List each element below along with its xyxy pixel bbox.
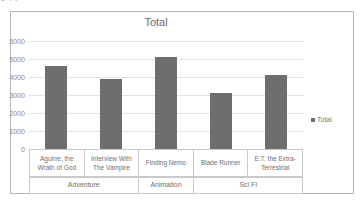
bar-series-total [29, 41, 303, 149]
y-tick-label-1000: 1000 [9, 128, 25, 135]
legend-swatch-icon [311, 118, 315, 122]
y-tick-label-5000: 5000 [9, 56, 25, 63]
x-axis-category-label: Interview With The Vampire [84, 149, 139, 177]
x-axis-category-label: E.T. the Extra-Terrestrial [247, 149, 303, 177]
bar-slot [84, 41, 139, 149]
x-axis-group-label: Animation [138, 177, 194, 194]
x-axis-group-label: Sci Fi [193, 177, 303, 194]
bar[interactable] [100, 79, 122, 149]
bar-slot [193, 41, 248, 149]
y-tick-label-2000: 2000 [9, 110, 25, 117]
bar[interactable] [45, 66, 67, 149]
x-axis-category-label: Finding Nemo [138, 149, 193, 177]
y-tick-label-6000: 6000 [9, 38, 25, 45]
x-axis: Aguirre, the Wrath of GodInterview With … [29, 149, 303, 194]
x-axis-category-label: Blade Runner [193, 149, 248, 177]
cut-off-text: o I I [0, 0, 18, 3]
y-tick-label-3000: 3000 [9, 92, 25, 99]
bar-slot [248, 41, 303, 149]
y-tick-label-4000: 4000 [9, 74, 25, 81]
bar[interactable] [155, 57, 177, 149]
legend-label-total: Total [317, 116, 332, 123]
x-axis-category-label: Aguirre, the Wrath of God [29, 149, 84, 177]
x-axis-group-label: Adventure [29, 177, 138, 194]
legend: Total [311, 116, 332, 123]
plot-area: 0100020003000400050006000 [29, 41, 303, 149]
chart-container: Total 0100020003000400050006000 Aguirre,… [10, 11, 354, 194]
bar[interactable] [210, 93, 232, 149]
chart-title: Total [11, 16, 301, 28]
bar[interactable] [265, 75, 287, 149]
bar-slot [139, 41, 194, 149]
x-axis-category-row: Aguirre, the Wrath of GodInterview With … [29, 149, 303, 177]
bar-slot [29, 41, 84, 149]
x-axis-group-row: AdventureAnimationSci Fi [29, 177, 303, 194]
y-tick-label-0: 0 [21, 146, 25, 153]
cut-off-text-above-figure: o I I [0, 0, 364, 9]
